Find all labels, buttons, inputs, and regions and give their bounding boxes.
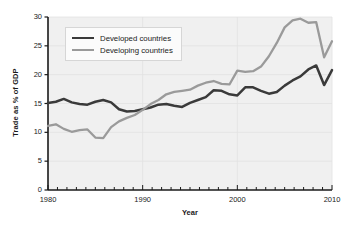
legend-item-developed: Developed countries bbox=[72, 32, 173, 44]
legend-label-developed: Developed countries bbox=[100, 34, 171, 43]
legend-label-developing: Developing countries bbox=[100, 46, 173, 55]
legend-item-developing: Developing countries bbox=[72, 44, 173, 56]
legend-swatch-developing bbox=[72, 49, 94, 51]
chart-figure: Trade as % of GDP Year 051015202530 1980… bbox=[0, 0, 355, 226]
legend-swatch-developed bbox=[72, 37, 94, 39]
chart-legend: Developed countries Developing countries bbox=[65, 27, 182, 61]
